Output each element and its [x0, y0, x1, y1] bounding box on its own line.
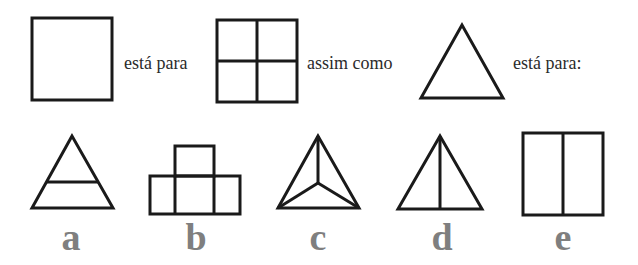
- option-label-e[interactable]: e: [555, 216, 572, 258]
- phrase-assim-como: assim como: [307, 53, 393, 73]
- premise-triangle: [421, 25, 503, 98]
- phrase-esta-para: está para: [124, 53, 187, 73]
- phrase-esta-para-colon: está para:: [513, 53, 581, 73]
- premise-square: [32, 18, 112, 100]
- option-label-b[interactable]: b: [185, 216, 206, 258]
- option-label-a[interactable]: a: [62, 216, 81, 258]
- option-label-c[interactable]: c: [310, 216, 327, 258]
- analogy-puzzle: está para assim como está para:: [0, 0, 638, 265]
- option-a-shape[interactable]: [32, 136, 113, 208]
- premise-square-quartered: [217, 20, 297, 102]
- option-e-shape[interactable]: [523, 133, 603, 215]
- option-label-d[interactable]: d: [431, 216, 452, 258]
- option-c-shape[interactable]: [278, 136, 359, 208]
- option-d-shape[interactable]: [398, 136, 482, 209]
- option-b-shape[interactable]: [150, 146, 240, 214]
- puzzle-figure: está para assim como está para:: [0, 0, 638, 265]
